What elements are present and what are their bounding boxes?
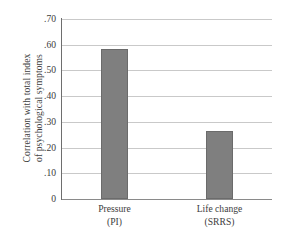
y-tick-label: .30 [22,117,60,127]
y-tick-label: .60 [22,40,60,50]
x-tick-label-line-1: Pressure [98,203,131,214]
bar-series [62,19,272,199]
axis-baseline [62,199,272,200]
x-tick-label: Life change(SRRS) [197,203,243,228]
bar [101,49,128,199]
y-tick-label: .40 [22,91,60,101]
x-tick-label: Pressure(PI) [98,203,131,228]
x-tick-label-line-2: (SRRS) [197,216,243,229]
plot-area [62,19,272,199]
y-axis-tick-labels: .70.60.50.40.30.20.100 [22,0,60,238]
x-tick-label-line-2: (PI) [98,216,131,229]
y-tick-label: .20 [22,143,60,153]
y-tick-label: 0 [22,194,60,204]
y-tick-label: .50 [22,65,60,75]
y-tick-label: .10 [22,168,60,178]
x-axis-tick-labels: Pressure(PI)Life change(SRRS) [62,203,272,235]
y-tick-label: .70 [22,14,60,24]
x-tick-label-line-1: Life change [197,203,243,214]
bar [206,131,233,199]
bar-chart: Correlation with total index of psycholo… [0,0,287,238]
